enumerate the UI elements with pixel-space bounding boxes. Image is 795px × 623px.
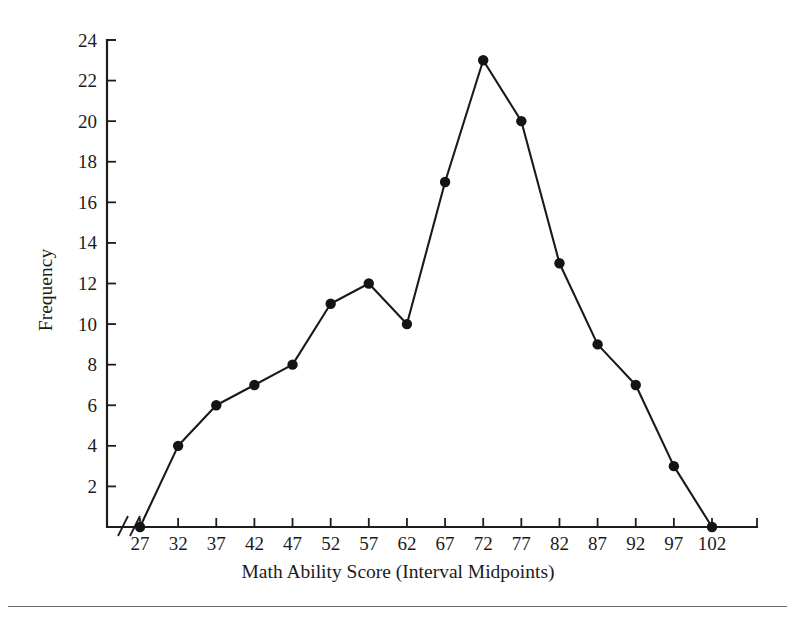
data-point-marker (478, 55, 488, 65)
x-tick-label: 82 (550, 533, 569, 554)
data-point-marker (364, 278, 374, 288)
y-tick-label: 12 (78, 273, 97, 294)
x-tick-label: 37 (207, 533, 226, 554)
data-point-marker (173, 441, 183, 451)
x-tick-label: 97 (664, 533, 683, 554)
data-point-marker (440, 177, 450, 187)
y-tick-label: 6 (88, 395, 98, 416)
x-tick-label: 57 (359, 533, 378, 554)
x-tick-label: 42 (245, 533, 264, 554)
x-tick-label: 92 (626, 533, 645, 554)
chart-page: 24681012141618202224 2732374247525762677… (0, 0, 795, 623)
y-tick-label: 18 (78, 151, 97, 172)
data-point-marker (249, 380, 259, 390)
x-tick-label: 32 (169, 533, 188, 554)
data-point-marker (631, 380, 641, 390)
data-point-marker (669, 461, 679, 471)
frequency-polygon-figure: 24681012141618202224 2732374247525762677… (0, 0, 795, 623)
x-tick-label: 67 (436, 533, 455, 554)
x-tick-label: 47 (283, 533, 302, 554)
y-tick-label: 10 (78, 314, 97, 335)
y-tick-label: 4 (88, 435, 98, 456)
y-tick-label: 20 (78, 111, 97, 132)
axis-lines (107, 40, 757, 527)
x-axis-ticks: 273237424752576267727782879297102 (131, 518, 758, 554)
axes-group (107, 40, 757, 527)
y-tick-label: 16 (78, 192, 97, 213)
y-tick-label: 8 (88, 354, 98, 375)
x-tick-label: 52 (321, 533, 340, 554)
chart-svg: 24681012141618202224 2732374247525762677… (0, 0, 795, 623)
x-tick-label: 62 (397, 533, 416, 554)
y-axis-title: Frequency (35, 249, 56, 332)
x-tick-label: 72 (474, 533, 493, 554)
data-point-marker (135, 522, 145, 532)
x-axis-title: Math Ability Score (Interval Midpoints) (241, 561, 554, 583)
y-tick-label: 24 (78, 30, 98, 51)
x-tick-label: 102 (698, 533, 727, 554)
data-point-marker (402, 319, 412, 329)
y-tick-label: 22 (78, 70, 97, 91)
x-tick-label: 77 (512, 533, 531, 554)
footer-divider (8, 606, 787, 607)
frequency-series (135, 55, 717, 532)
data-point-marker (325, 299, 335, 309)
x-tick-label: 27 (131, 533, 150, 554)
data-point-marker (592, 339, 602, 349)
y-tick-label: 14 (78, 232, 98, 253)
data-point-marker (516, 116, 526, 126)
x-tick-label: 87 (588, 533, 607, 554)
data-point-marker (211, 400, 221, 410)
y-axis-ticks: 24681012141618202224 (78, 30, 116, 497)
data-point-marker (554, 258, 564, 268)
y-tick-label: 2 (88, 476, 98, 497)
data-point-marker (287, 359, 297, 369)
data-point-marker (707, 522, 717, 532)
frequency-polyline (140, 60, 712, 527)
